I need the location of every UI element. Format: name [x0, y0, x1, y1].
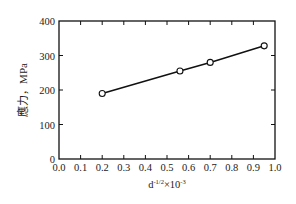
y-tick-label: 400 [39, 16, 55, 27]
x-tick-label: 0.2 [96, 162, 109, 173]
axis-ticks [59, 21, 275, 159]
data-point-marker [99, 90, 105, 96]
y-tick-label: 100 [39, 120, 55, 131]
data-series [99, 43, 267, 97]
x-label-exponent-1: -1/2 [153, 178, 163, 185]
x-tick-label: 0.3 [117, 162, 130, 173]
tick-labels: 0.00.10.20.30.40.50.60.70.80.91.00100200… [39, 16, 281, 173]
x-label-exponent-2: -3 [180, 178, 185, 185]
x-tick-label: 0.9 [247, 162, 260, 173]
plot-frame [59, 21, 275, 159]
y-tick-label: 0 [50, 154, 55, 165]
x-label-multiplier: ×10 [164, 179, 180, 190]
x-tick-label: 1.0 [268, 162, 281, 173]
data-point-marker [207, 59, 213, 65]
y-tick-label: 200 [39, 85, 55, 96]
stress-vs-grain-size-chart: 應力，MPa 0.00.10.20.30.40.50.60.70.80.91.0… [0, 0, 296, 204]
x-axis-label: d-1/2×10-3 [148, 178, 186, 190]
data-point-marker [261, 43, 267, 49]
y-axis-label: 應力，MPa [16, 63, 29, 117]
x-tick-label: 0.5 [160, 162, 173, 173]
x-tick-label: 0.6 [182, 162, 195, 173]
x-tick-label: 0.7 [204, 162, 217, 173]
data-point-marker [177, 68, 183, 74]
x-tick-label: 0.4 [139, 162, 153, 173]
x-tick-label: 0.1 [74, 162, 87, 173]
x-tick-label: 0.8 [225, 162, 238, 173]
y-axis-label-text: 應力，MPa [16, 63, 29, 117]
chart-canvas: 應力，MPa 0.00.10.20.30.40.50.60.70.80.91.0… [0, 0, 296, 204]
y-tick-label: 300 [39, 51, 55, 62]
